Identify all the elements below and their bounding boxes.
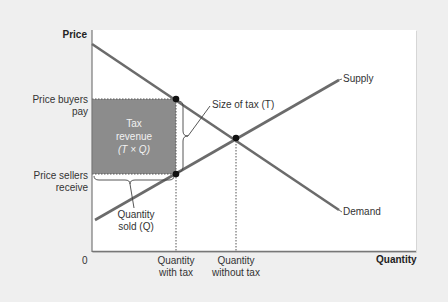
- equilibrium-point: [233, 135, 240, 142]
- quantity-without-tax-label: Quantity without tax: [204, 255, 268, 279]
- tax-revenue-line1: Tax: [92, 117, 176, 130]
- quantity-with-tax-label: Quantity with tax: [148, 255, 204, 279]
- demand-label: Demand: [343, 206, 381, 218]
- quantity-without-tax-line2: without tax: [204, 267, 268, 279]
- price-sellers-receive-label: Price sellers receive: [10, 170, 88, 194]
- price-buyers-line2: pay: [10, 106, 88, 118]
- quantity-sold-leader: [130, 184, 134, 208]
- origin-label: 0: [82, 255, 88, 267]
- y-axis-label: Price: [40, 29, 87, 41]
- tax-revenue-line3: (T × Q): [92, 143, 176, 156]
- quantity-without-tax-line1: Quantity: [204, 255, 268, 267]
- buyers-price-point: [173, 96, 180, 103]
- tax-revenue-label: Tax revenue (T × Q): [92, 117, 176, 156]
- quantity-with-tax-line2: with tax: [148, 267, 204, 279]
- quantity-sold-line1: Quantity: [108, 209, 164, 221]
- supply-label-tick: [339, 79, 342, 80]
- quantity-with-tax-line1: Quantity: [148, 255, 204, 267]
- sellers-price-point: [173, 171, 180, 178]
- quantity-sold-label: Quantity sold (Q): [108, 209, 164, 233]
- size-of-tax-brace: [178, 101, 188, 172]
- quantity-sold-line2: sold (Q): [108, 221, 164, 233]
- price-sellers-line1: Price sellers: [10, 170, 88, 182]
- x-axis-label: Quantity: [376, 254, 417, 266]
- price-sellers-line2: receive: [10, 182, 88, 194]
- tax-revenue-line2: revenue: [92, 130, 176, 143]
- price-buyers-line1: Price buyers: [10, 94, 88, 106]
- size-of-tax-label: Size of tax (T): [212, 99, 274, 111]
- price-buyers-pay-label: Price buyers pay: [10, 94, 88, 118]
- demand-label-tick: [339, 210, 342, 212]
- supply-label: Supply: [343, 73, 374, 85]
